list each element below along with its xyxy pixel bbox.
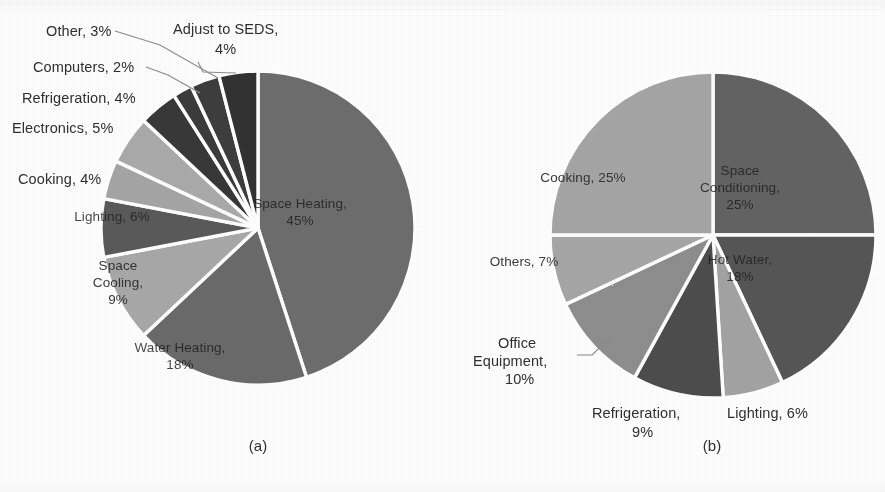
caption-b: (b) — [682, 437, 742, 454]
figure-root: Other, 3%Adjust to SEDS,4%Computers, 2%R… — [0, 0, 885, 492]
pie-callout-label: Other, 3% — [46, 22, 111, 41]
pie-callout-label: 9% — [632, 423, 653, 442]
pie-callout-label: Adjust to SEDS, — [173, 20, 278, 39]
caption-a: (a) — [228, 437, 288, 454]
pie-slice — [713, 72, 876, 235]
pie-callout-label: Electronics, 5% — [12, 119, 113, 138]
pie-callout-label: 10% — [505, 370, 534, 389]
pie-callout-label: Computers, 2% — [33, 58, 134, 77]
pie-callout-label: Lighting, 6% — [727, 404, 808, 423]
pie-callout-label: 4% — [215, 40, 236, 59]
pie-callout-label: Refrigeration, — [592, 404, 680, 423]
pie-callout-label: Cooking, 4% — [18, 170, 101, 189]
pie-callout-label: Refrigeration, 4% — [22, 89, 136, 108]
pie-slice — [550, 72, 713, 235]
pie-callout-label: Equipment, — [473, 352, 547, 371]
pie-callout-label: Office — [498, 334, 536, 353]
